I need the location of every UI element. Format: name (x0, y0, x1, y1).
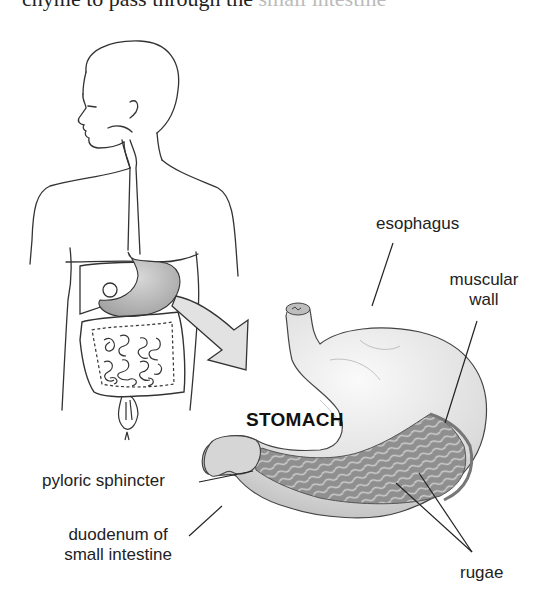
intestines (80, 312, 185, 440)
head-outline (86, 41, 179, 133)
label-muscular-wall-line2: wall (429, 290, 539, 310)
leader-esophagus (372, 243, 393, 306)
label-pyloric-sphincter: pyloric sphincter (42, 471, 165, 491)
human-figure (30, 41, 238, 410)
zoom-arrow (172, 296, 248, 370)
label-rugae: rugae (460, 563, 503, 583)
esophagus-tube (122, 140, 130, 250)
label-esophagus: esophagus (376, 214, 459, 234)
large-intestine (80, 312, 185, 397)
diagram-title: STOMACH (246, 409, 344, 431)
label-muscular-wall: muscular wall (429, 270, 539, 310)
label-duodenum: duodenum of small intestine (48, 525, 188, 565)
label-duodenum-line1: duodenum of (48, 525, 188, 545)
leader-duodenum (189, 506, 222, 536)
label-muscular-wall-line1: muscular (429, 270, 539, 290)
esophagus-opening (286, 303, 310, 315)
duodenum-end (204, 436, 260, 477)
small-intestine (104, 335, 161, 386)
right-shoulder (162, 160, 238, 276)
label-duodenum-line2: small intestine (48, 545, 188, 565)
left-shoulder (30, 168, 130, 264)
